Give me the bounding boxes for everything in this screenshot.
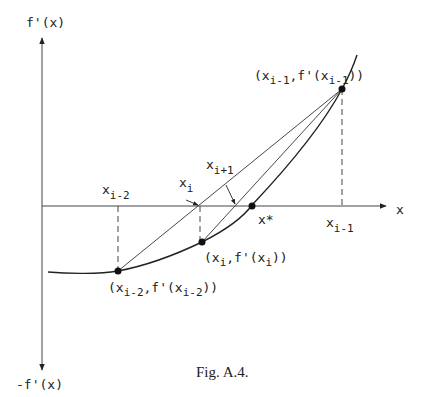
label-x-i-plus-1: xi+1 [206,157,234,177]
y-axis-top-label: f'(x) [26,15,65,30]
pointer-arrow-x-i [186,200,198,205]
secant-line-outer [118,89,342,271]
label-x-star: x* [258,212,274,227]
label-point-i-minus-2: (xi-2,f'(xi-2)) [108,280,218,299]
pointer-arrow-x-i-plus-1 [226,185,235,204]
y-axis-bottom-label: -f'(x) [16,377,63,392]
label-x-i-minus-1: xi-1 [326,215,354,235]
label-x-i-minus-2: xi-2 [102,182,130,202]
x-axis-label: x [396,202,404,217]
label-x-i: xi [179,175,193,195]
label-point-i-minus-1: (xi-1,f'(xi-1)) [254,68,364,87]
point-x-i-minus-2 [115,268,122,275]
figure-caption: Fig. A.4. [196,364,249,380]
point-x-star [249,203,256,210]
secant-method-diagram: f'(x) -f'(x) x xi-2 xi xi+1 x* xi-1 (xi-… [0,0,421,397]
point-x-i [199,239,206,246]
label-point-i: (xi,f'(xi)) [204,250,288,269]
